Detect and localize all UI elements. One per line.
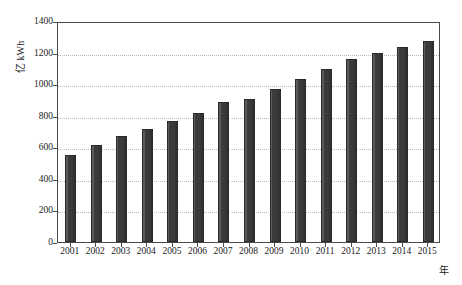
x-axis-tick-label: 2006 xyxy=(188,246,207,256)
x-axis-tick-mark xyxy=(172,243,173,247)
x-axis-tick-mark xyxy=(325,243,326,247)
bar xyxy=(397,47,408,242)
y-axis-tick-mark xyxy=(53,148,57,149)
x-axis-tick-label: 2015 xyxy=(418,246,437,256)
bar xyxy=(167,121,178,242)
x-axis-tick-mark xyxy=(249,243,250,247)
y-axis-tick-mark xyxy=(53,54,57,55)
bar xyxy=(116,136,127,242)
x-axis-tick-label: 2003 xyxy=(111,246,130,256)
y-axis-tick-label: 1000 xyxy=(13,80,53,90)
x-axis-tick-mark xyxy=(427,243,428,247)
bar xyxy=(270,89,281,242)
y-axis-tick-mark xyxy=(53,243,57,244)
y-axis-tick-label: 1200 xyxy=(13,49,53,59)
x-axis-tick-mark xyxy=(121,243,122,247)
y-axis-tick-label: 200 xyxy=(13,207,53,217)
x-axis-tick-label: 2002 xyxy=(86,246,105,256)
y-axis-tick-label: 600 xyxy=(13,144,53,154)
bar xyxy=(244,99,255,242)
y-axis-tick-mark xyxy=(53,211,57,212)
x-axis-tick-mark xyxy=(95,243,96,247)
x-axis-tick-label: 2008 xyxy=(239,246,258,256)
bar xyxy=(193,113,204,242)
x-axis-tick-label: 2004 xyxy=(137,246,156,256)
x-axis-tick-mark xyxy=(402,243,403,247)
bar xyxy=(372,53,383,242)
x-axis-tick-label: 2010 xyxy=(290,246,309,256)
bar-chart: 亿 kWh 0200400600800100012001400 20012002… xyxy=(0,0,462,285)
bar xyxy=(65,155,76,242)
y-axis-tick-label: 400 xyxy=(13,175,53,185)
y-axis-tick-labels: 0200400600800100012001400 xyxy=(9,22,53,243)
x-axis-tick-label: 2005 xyxy=(162,246,181,256)
bar xyxy=(91,145,102,242)
x-axis-title: 年 xyxy=(439,262,449,277)
bar xyxy=(346,59,357,242)
bar xyxy=(321,69,332,242)
x-axis-tick-label: 2014 xyxy=(392,246,411,256)
y-axis-tick-mark xyxy=(53,22,57,23)
y-axis-tick-label: 0 xyxy=(13,238,53,248)
x-axis-tick-mark xyxy=(146,243,147,247)
y-axis-tick-label: 800 xyxy=(13,112,53,122)
bar xyxy=(295,79,306,242)
x-axis-tick-labels: 2001200220032004200520062007200820092010… xyxy=(57,246,440,262)
x-axis-tick-label: 2009 xyxy=(265,246,284,256)
x-axis-tick-label: 2012 xyxy=(341,246,360,256)
x-axis-tick-mark xyxy=(274,243,275,247)
x-axis-tick-label: 2011 xyxy=(316,246,335,256)
plot-area xyxy=(57,22,440,243)
x-axis-tick-label: 2007 xyxy=(213,246,232,256)
x-axis-tick-label: 2013 xyxy=(367,246,386,256)
bar xyxy=(142,129,153,242)
x-axis-tick-mark xyxy=(376,243,377,247)
bar xyxy=(423,41,434,242)
x-axis-tick-mark xyxy=(351,243,352,247)
x-axis-tick-mark xyxy=(70,243,71,247)
bar xyxy=(218,102,229,242)
x-axis-tick-label: 2001 xyxy=(60,246,79,256)
y-axis-tick-label: 1400 xyxy=(13,17,53,27)
x-axis-tick-mark xyxy=(197,243,198,247)
x-axis-tick-mark xyxy=(300,243,301,247)
x-axis-tick-mark xyxy=(223,243,224,247)
y-axis-tick-mark xyxy=(53,117,57,118)
y-axis-tick-mark xyxy=(53,85,57,86)
y-axis-tick-mark xyxy=(53,180,57,181)
